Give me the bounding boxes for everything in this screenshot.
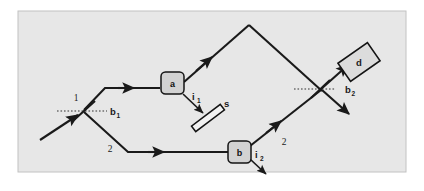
label-beamsplitter-1-main: b	[110, 106, 116, 117]
label-path-1: 1	[74, 93, 79, 103]
label-beamsplitter-2-sub: 2	[352, 90, 356, 97]
label-i1-sub: 1	[197, 97, 201, 104]
component-b[interactable]: b	[228, 141, 251, 163]
label-beamsplitter-1-sub: 1	[117, 112, 121, 119]
interferometer-diagram: a b d 1 b 1 2 2 i 1	[0, 0, 424, 191]
label-path-2-left: 2	[108, 144, 113, 154]
label-sample-s: s	[224, 98, 229, 109]
label-i2-sub: 2	[260, 155, 264, 162]
label-i1-main: i	[192, 91, 195, 102]
figure-root: a b d 1 b 1 2 2 i 1	[0, 0, 424, 191]
label-path-2-right: 2	[282, 137, 287, 147]
label-i2-main: i	[255, 149, 258, 160]
component-b-label: b	[237, 148, 243, 158]
component-a[interactable]: a	[161, 72, 184, 94]
detector-d-label: d	[356, 57, 362, 68]
label-beamsplitter-2-main: b	[345, 84, 351, 95]
